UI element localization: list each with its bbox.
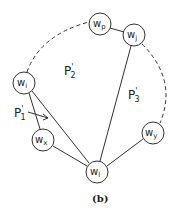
node-wi: wi bbox=[13, 72, 35, 94]
edge-wp-wj bbox=[110, 28, 124, 32]
node-wx: wx bbox=[32, 129, 54, 151]
figure-caption: (b) bbox=[92, 193, 108, 204]
dashed-arc-wj-wy bbox=[142, 44, 166, 123]
region-label-p1: P'1 bbox=[14, 105, 26, 122]
graph-diagram: wp wj wi wx wy wl P'2 P'3 P'1 (b) bbox=[0, 0, 179, 216]
region-label-p3: P'3 bbox=[128, 87, 140, 104]
edge-wj-wl bbox=[100, 46, 131, 161]
node-wj: wj bbox=[123, 24, 145, 46]
node-wl: wl bbox=[86, 161, 108, 183]
node-wp: wp bbox=[89, 13, 111, 35]
node-wy: wy bbox=[142, 122, 164, 144]
edge-wx-wl bbox=[53, 146, 87, 166]
edge-wy-wl bbox=[107, 139, 143, 166]
edge-wi-wl bbox=[32, 91, 89, 163]
region-label-p2: P'2 bbox=[64, 63, 76, 80]
dashed-arc-wi-wp bbox=[27, 22, 89, 72]
